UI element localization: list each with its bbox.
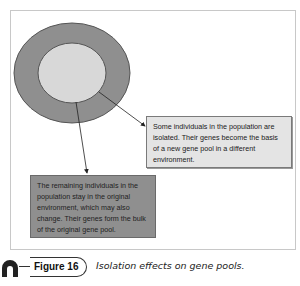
- isolated-subpopulation-circle: [38, 43, 106, 103]
- remaining-individuals-text: The remaining individuals in the populat…: [37, 181, 146, 234]
- figure-label: Figure 16: [30, 257, 87, 277]
- isolated-individuals-box: Some individuals in the population are i…: [146, 116, 292, 168]
- remaining-individuals-box: The remaining individuals in the populat…: [30, 175, 156, 238]
- caption-connector: [19, 266, 30, 267]
- figure-arch-icon: [1, 259, 19, 277]
- figure-caption: Isolation effects on gene pools.: [96, 259, 245, 273]
- isolated-individuals-text: Some individuals in the population are i…: [153, 122, 278, 164]
